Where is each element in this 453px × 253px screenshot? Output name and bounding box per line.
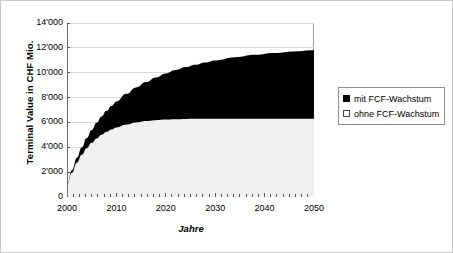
x-axis-tick-label: 2030 bbox=[190, 203, 240, 213]
x-axis-tick-label: 2010 bbox=[91, 203, 141, 213]
chart-figure: Terminal Value in CHF Mio. 02'0004'0006'… bbox=[0, 0, 453, 253]
filled-square-icon bbox=[343, 95, 350, 102]
x-axis-tick-labels: 200020102020203020402050 bbox=[1, 1, 453, 253]
x-axis-title: Jahre bbox=[67, 223, 315, 234]
legend-item-label: ohne FCF-Wachstum bbox=[354, 109, 439, 119]
x-axis-tick-label: 2020 bbox=[141, 203, 191, 213]
x-axis-tick-label: 2000 bbox=[42, 203, 92, 213]
legend-item-label: mit FCF-Wachstum bbox=[354, 94, 431, 104]
x-axis-tick-label: 2050 bbox=[289, 203, 339, 213]
legend-item-mit-fcf-wachstum[interactable]: mit FCF-Wachstum bbox=[343, 92, 439, 105]
legend-item-ohne-fcf-wachstum[interactable]: ohne FCF-Wachstum bbox=[343, 107, 439, 120]
empty-square-icon bbox=[343, 110, 350, 117]
chart-legend: mit FCF-Wachstum ohne FCF-Wachstum bbox=[338, 87, 445, 125]
x-axis-tick-label: 2040 bbox=[240, 203, 290, 213]
